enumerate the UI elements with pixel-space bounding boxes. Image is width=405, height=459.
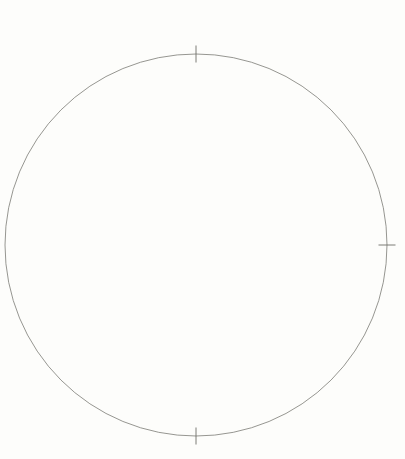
horizon-circle [5, 54, 387, 436]
star-chart [0, 0, 405, 459]
